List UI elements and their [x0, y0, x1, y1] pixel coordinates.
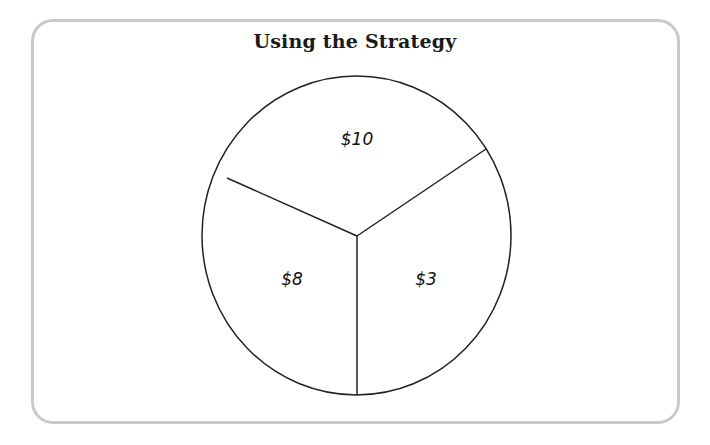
section-label-top: $10 — [341, 129, 373, 149]
section-label-right: $3 — [415, 269, 437, 289]
parts-circle-diagram: $10 $8 $3 — [0, 0, 710, 445]
section-label-left: $8 — [281, 269, 303, 289]
